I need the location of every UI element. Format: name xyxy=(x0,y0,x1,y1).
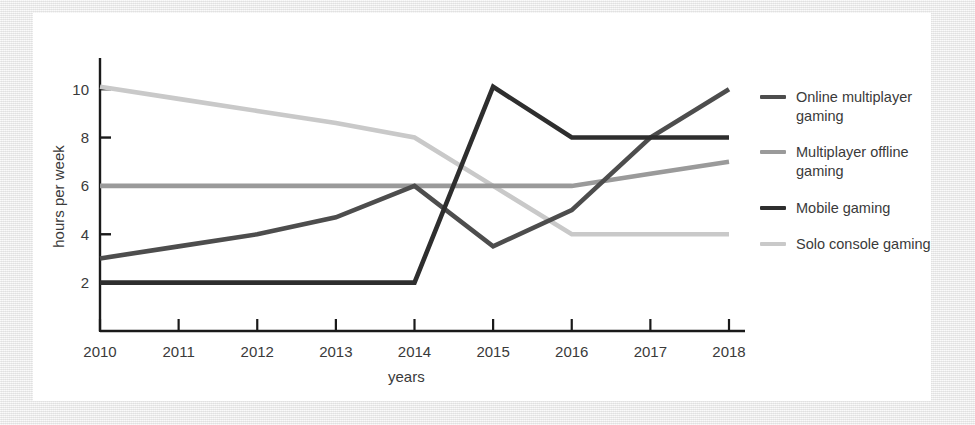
y-tick-label: 2 xyxy=(81,274,89,291)
legend-swatch-icon xyxy=(760,95,786,99)
x-tick-label: 2011 xyxy=(162,343,194,360)
legend-swatch-icon xyxy=(760,150,786,154)
chart-legend: Online multiplayer gamingMultiplayer off… xyxy=(760,88,935,271)
y-tick-label: 10 xyxy=(72,81,89,98)
x-tick-label: 2015 xyxy=(476,343,509,360)
series-lines xyxy=(100,87,729,283)
legend-item-label: Multiplayer offline gaming xyxy=(796,143,934,181)
legend-item[interactable]: Multiplayer offline gaming xyxy=(760,143,935,181)
y-tick-label: 4 xyxy=(81,226,89,243)
x-tick-label: 2010 xyxy=(83,343,116,360)
figure-card: 246810 201020112012201320142015201620172… xyxy=(33,13,931,401)
legend-item-label: Online multiplayer gaming xyxy=(796,88,934,126)
x-tick-label: 2016 xyxy=(555,343,588,360)
x-tick-label: 2018 xyxy=(712,343,745,360)
legend-item[interactable]: Online multiplayer gaming xyxy=(760,88,935,126)
x-tick-label: 2017 xyxy=(634,343,667,360)
legend-item[interactable]: Solo console gaming xyxy=(760,235,935,254)
legend-swatch-icon xyxy=(760,206,786,210)
series-line xyxy=(100,87,729,235)
x-tick-label: 2014 xyxy=(398,343,431,360)
x-tick-label: 2012 xyxy=(241,343,274,360)
x-axis-title: years xyxy=(388,368,425,385)
x-axis-ticks: 201020112012201320142015201620172018 xyxy=(83,319,745,360)
y-tick-label: 8 xyxy=(81,129,89,146)
x-tick-label: 2013 xyxy=(319,343,352,360)
legend-item-label: Mobile gaming xyxy=(796,199,890,218)
y-axis-title: hours per week xyxy=(50,132,67,262)
y-tick-label: 6 xyxy=(81,177,89,194)
series-line xyxy=(100,162,729,186)
legend-swatch-icon xyxy=(760,242,786,246)
legend-item-label: Solo console gaming xyxy=(796,235,931,254)
legend-item[interactable]: Mobile gaming xyxy=(760,199,935,218)
line-chart: 246810 201020112012201320142015201620172… xyxy=(33,13,931,401)
